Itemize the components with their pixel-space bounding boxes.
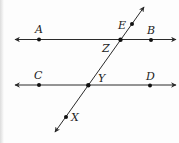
point-c: [37, 83, 41, 87]
diagram-canvas: A B E Z C Y D X: [0, 0, 179, 143]
point-z: [118, 38, 122, 42]
point-y: [86, 83, 90, 87]
label-a: A: [34, 23, 43, 36]
label-e: E: [117, 19, 126, 32]
label-z: Z: [101, 42, 110, 55]
point-a: [37, 38, 41, 42]
transversal-line: [55, 7, 144, 132]
label-b: B: [146, 24, 155, 37]
label-d: D: [145, 70, 155, 83]
point-x: [64, 115, 68, 119]
point-e: [130, 22, 134, 26]
geometry-figure: A B E Z C Y D X: [0, 0, 179, 143]
label-y: Y: [98, 72, 107, 85]
point-b: [149, 38, 153, 42]
point-d: [148, 84, 152, 88]
label-c: C: [34, 69, 43, 82]
label-x: X: [70, 111, 80, 124]
